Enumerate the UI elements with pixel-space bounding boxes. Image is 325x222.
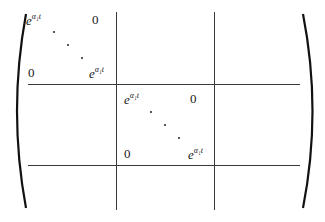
diag-dot [178, 137, 180, 139]
exp-power: α₁t [32, 12, 41, 21]
block1-bottom-right-entry: eα₁t [89, 67, 104, 80]
block2-top-left-entry: eα₁t [124, 93, 139, 106]
grid-vline-2 [214, 12, 215, 210]
block2-bottom-right-entry: eα₁t [188, 148, 203, 161]
exp-base: e [188, 147, 194, 162]
exp-base: e [124, 92, 130, 107]
block1-top-right-zero: 0 [92, 13, 99, 26]
exp-power: α₁t [95, 65, 104, 74]
block1-bottom-left-zero: 0 [28, 66, 35, 79]
left-parenthesis [8, 12, 30, 210]
exp-power: α₁t [130, 91, 139, 100]
exp-base: e [89, 66, 95, 81]
grid-vline-1 [116, 12, 117, 210]
exp-base: e [26, 13, 32, 28]
block2-top-right-zero: 0 [190, 92, 197, 105]
diag-dot [53, 31, 55, 33]
exp-power: α₁t [194, 146, 203, 155]
grid-hline-1 [28, 84, 300, 85]
diag-dot [164, 124, 166, 126]
grid-hline-2 [28, 165, 300, 166]
block2-bottom-left-zero: 0 [124, 147, 131, 160]
cropped-text-top [0, 0, 325, 4]
block1-top-left-entry: eα₁t [26, 14, 41, 27]
diag-dot [150, 111, 152, 113]
right-parenthesis [300, 12, 322, 210]
diag-dot [81, 57, 83, 59]
diag-dot [67, 44, 69, 46]
